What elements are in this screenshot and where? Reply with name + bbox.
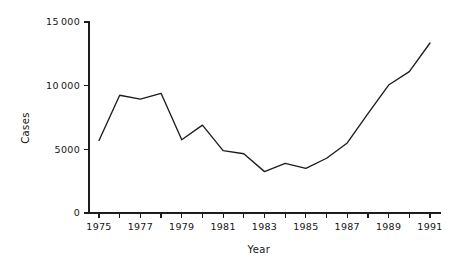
y-axis: 0500010 00015 000 bbox=[46, 16, 89, 218]
chart-plot-area: 0500010 00015 000 1975197719791981198319… bbox=[0, 0, 461, 271]
x-axis-tick-label: 1977 bbox=[128, 221, 153, 232]
y-axis-title: Cases bbox=[20, 112, 31, 144]
data-series bbox=[99, 43, 430, 172]
x-axis-tick-label: 1983 bbox=[252, 221, 277, 232]
x-axis-tick-label: 1981 bbox=[210, 221, 235, 232]
x-axis-title: Year bbox=[247, 244, 271, 255]
x-axis-tick-label: 1987 bbox=[335, 221, 360, 232]
x-axis-tick-label: 1991 bbox=[417, 221, 442, 232]
x-axis-tick-label: 1979 bbox=[169, 221, 194, 232]
y-axis-tick-label: 10 000 bbox=[46, 80, 80, 91]
y-axis-tick-label: 0 bbox=[74, 207, 80, 218]
line-chart: 0500010 00015 000 1975197719791981198319… bbox=[0, 0, 461, 271]
x-axis-tick-label: 1985 bbox=[293, 221, 318, 232]
series-line-cases bbox=[99, 43, 430, 172]
x-axis: 197519771979198119831985198719891991 bbox=[86, 213, 442, 232]
y-axis-tick-label: 15 000 bbox=[46, 16, 80, 27]
x-axis-tick-label: 1989 bbox=[376, 221, 401, 232]
x-axis-tick-label: 1975 bbox=[86, 221, 111, 232]
y-axis-tick-label: 5000 bbox=[55, 144, 80, 155]
